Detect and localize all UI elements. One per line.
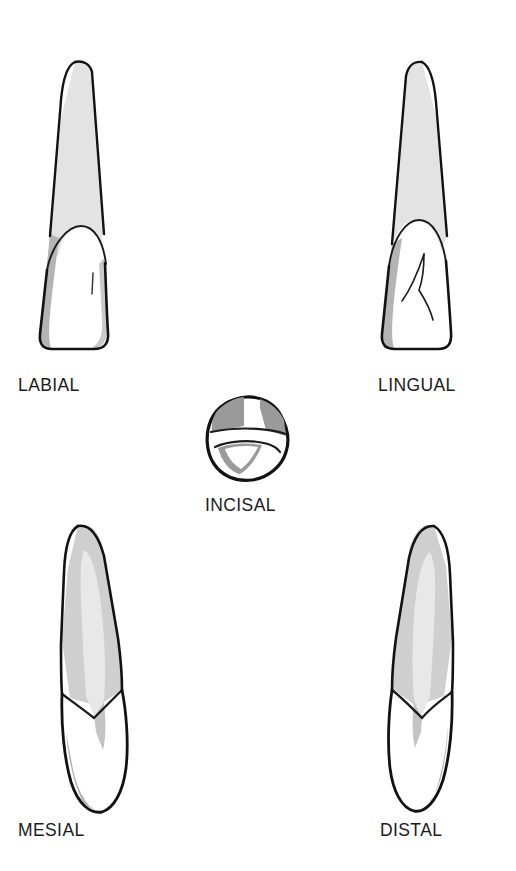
tooth-view-lingual xyxy=(362,58,472,358)
caption-mesial: MESIAL xyxy=(18,822,85,840)
tooth-view-distal xyxy=(372,520,487,820)
caption-incisal: INCISAL xyxy=(205,497,276,515)
caption-lingual: LINGUAL xyxy=(378,377,456,395)
tooth-view-mesial xyxy=(36,520,151,820)
tooth-anatomy-figure: LABIAL LINGUAL xyxy=(0,0,516,871)
caption-labial: LABIAL xyxy=(18,377,80,395)
tooth-view-labial xyxy=(28,58,138,358)
labial-developmental-groove xyxy=(92,273,93,294)
tooth-view-incisal xyxy=(198,392,298,487)
caption-distal: DISTAL xyxy=(380,822,442,840)
